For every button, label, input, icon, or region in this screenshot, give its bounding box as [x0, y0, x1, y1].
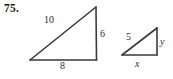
large-triangle-hypotenuse-label: 10: [44, 14, 54, 25]
large-triangle-vertical-leg-label: 6: [100, 28, 105, 39]
large-triangle-horizontal-leg-label: 8: [60, 60, 65, 71]
large-triangle-hypotenuse-edge: [30, 7, 96, 60]
small-triangle-hypotenuse-label: 5: [126, 31, 131, 42]
small-triangle-vertical-leg-label: y: [160, 36, 164, 47]
exercise-figure: 75. 10 6 8 5 y x: [0, 0, 173, 79]
small-triangle-horizontal-leg-label: x: [135, 58, 139, 69]
large-triangle-vertical-edge: [96, 7, 97, 60]
large-right-triangle: [30, 7, 97, 60]
triangles-drawing: [0, 0, 173, 79]
